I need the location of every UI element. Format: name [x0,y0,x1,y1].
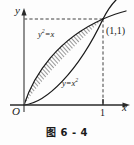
shaded-region [20,10,115,112]
figure-caption: 图 6 - 4 [0,124,134,139]
y-axis-label: y [15,5,20,16]
curve-label-lower-exponent: 2 [75,77,78,83]
point-label-1-1: (1,1) [106,26,125,36]
x-tick-label-1: 1 [100,108,105,118]
curve-label-upper-rest: =x [45,29,55,39]
curve-y-squared-equals-x [24,19,103,105]
figure-container: y x O 1 (1,1) y2=x y=x2 图 6 - 4 [0,0,134,145]
plot-canvas [0,0,134,118]
curve-label-y-squared-equals-x: y2=x [38,29,54,38]
curve-label-lower-base: y=x [62,78,75,88]
x-axis-label: x [122,102,127,113]
curve-y-equals-x-squared [24,19,103,105]
y-axis-arrowhead [21,8,26,16]
origin-label: O [12,106,20,117]
curve-label-y-equals-x-squared: y=x2 [62,78,78,87]
